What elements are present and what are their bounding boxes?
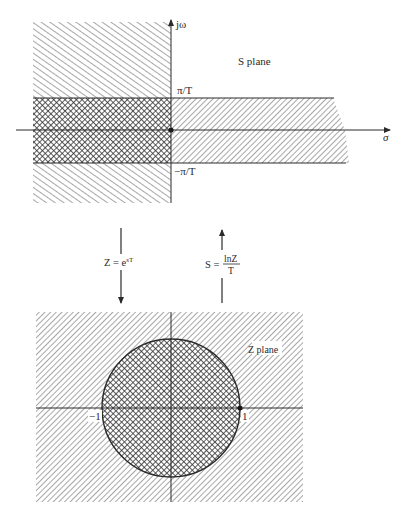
z-plane: Z plane −1 1 [36, 312, 303, 502]
lower-band-label: −π/T [174, 165, 196, 177]
s-plane: jω S plane π/T −π/T σ [16, 18, 390, 203]
s-plane-title: S plane [238, 55, 271, 67]
inverse-mapping-numerator: lnZ [224, 254, 237, 264]
forward-exponent: sT [126, 256, 134, 264]
pos-one-label: 1 [242, 410, 248, 422]
s-to-z-plane-mapping-diagram: jω S plane π/T −π/T σ Z = esT S = lnZ T … [0, 0, 405, 519]
mapping-inverse: S = lnZ T [205, 230, 240, 303]
z-plane-title: Z plane [248, 344, 279, 355]
upper-band-label: π/T [177, 84, 193, 96]
imag-axis-label: jω [175, 18, 186, 30]
mapping-forward: Z = esT [104, 228, 134, 303]
origin-point [168, 127, 173, 132]
neg-one-label: −1 [89, 410, 101, 422]
inverse-mapping-lhs: S = [205, 259, 219, 270]
real-axis-label: σ [383, 131, 389, 143]
inverse-mapping-denominator: T [228, 266, 234, 276]
forward-mapping-formula: Z = esT [104, 256, 134, 268]
